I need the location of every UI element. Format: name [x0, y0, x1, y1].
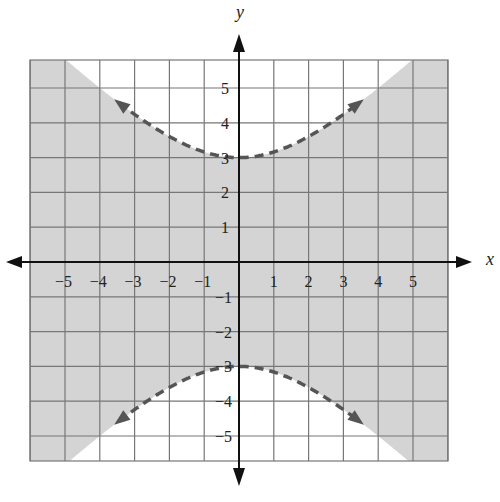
x-tick-label: 3 [339, 273, 347, 290]
y-tick-label: 4 [221, 115, 229, 132]
y-tick-label: −1 [215, 289, 232, 306]
y-tick-label: −2 [215, 324, 232, 341]
x-tick-label: −5 [55, 273, 72, 290]
x-tick-label: −3 [125, 273, 142, 290]
y-tick-label: −4 [215, 393, 232, 410]
y-tick-label: −3 [215, 358, 232, 375]
x-tick-label: 2 [305, 273, 313, 290]
y-axis-label: y [234, 2, 244, 22]
x-axis-label: x [485, 249, 494, 269]
y-tick-label: −5 [215, 428, 232, 445]
y-tick-label: 5 [221, 80, 229, 97]
x-tick-label: 1 [270, 273, 278, 290]
y-tick-label: 3 [221, 150, 229, 167]
x-tick-label: −2 [159, 273, 176, 290]
x-tick-label: 4 [374, 273, 382, 290]
x-tick-label: −1 [194, 273, 211, 290]
x-tick-label: 5 [409, 273, 417, 290]
hyperbola-inequality-graph: −5−4−3−2−112345−5−4−3−2−112345 y x [0, 0, 500, 502]
x-tick-label: −4 [90, 273, 107, 290]
y-tick-label: 2 [221, 184, 229, 201]
y-tick-label: 1 [221, 219, 229, 236]
